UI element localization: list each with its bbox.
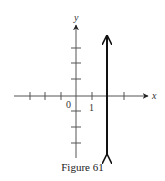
y-axis-label: y — [73, 12, 79, 23]
figure: y x 0 1 Figure 61 — [0, 0, 165, 181]
coordinate-plane: y x 0 1 — [0, 0, 165, 181]
origin-label: 0 — [66, 99, 71, 110]
unit-label: 1 — [89, 102, 94, 113]
x-axis-label: x — [151, 90, 157, 101]
figure-caption: Figure 61 — [0, 161, 165, 173]
